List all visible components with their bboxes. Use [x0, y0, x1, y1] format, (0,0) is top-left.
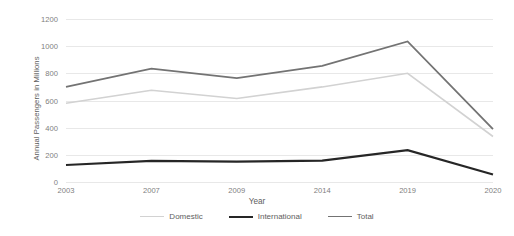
y-tick-label: 200 [20, 151, 58, 160]
x-tick-label: 2003 [36, 186, 96, 195]
legend-swatch-international-icon [229, 216, 253, 218]
x-tick-label: 2014 [292, 186, 352, 195]
y-tick-label: 1000 [20, 42, 58, 51]
legend-swatch-domestic-icon [140, 216, 164, 217]
y-tick-label: 800 [20, 69, 58, 78]
legend-item-international[interactable]: International [229, 212, 302, 221]
y-tick-label: 600 [20, 97, 58, 106]
x-tick-label: 2019 [378, 186, 438, 195]
series-line-international [66, 150, 493, 174]
legend-label: Total [357, 212, 374, 221]
legend-item-total[interactable]: Total [328, 212, 374, 221]
legend-swatch-total-icon [328, 216, 352, 217]
gridline [66, 182, 493, 183]
line-chart: Annual Passengers in Millions 0200400600… [0, 0, 514, 236]
x-tick-label: 2020 [463, 186, 514, 195]
y-tick-label: 400 [20, 124, 58, 133]
y-axis-title: Annual Passengers in Millions [32, 29, 41, 189]
chart-legend: DomesticInternationalTotal [0, 212, 514, 221]
series-lines [66, 19, 493, 182]
legend-item-domestic[interactable]: Domestic [140, 212, 202, 221]
x-tick-label: 2009 [207, 186, 267, 195]
legend-label: International [258, 212, 302, 221]
series-line-domestic [66, 73, 493, 136]
x-tick-label: 2007 [121, 186, 181, 195]
series-line-total [66, 41, 493, 129]
legend-label: Domestic [169, 212, 202, 221]
x-axis-title: Year [0, 197, 514, 206]
y-tick-label: 1200 [20, 15, 58, 24]
plot-area [66, 19, 493, 182]
